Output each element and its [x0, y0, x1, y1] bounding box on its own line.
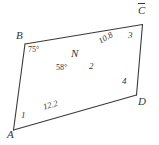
angle-label-n-58: 58°	[56, 64, 67, 72]
figure-lines	[0, 0, 159, 145]
angle-label-2: 2	[89, 62, 94, 71]
angle-label-4: 4	[122, 77, 127, 86]
geometry-figure: B A C D N 75° 58° 1 2 3 4 12.2 10.8	[0, 0, 159, 145]
vertex-label-n: N	[71, 48, 78, 59]
angle-label-1: 1	[21, 111, 26, 120]
angle-label-b-75: 75°	[28, 46, 39, 54]
vertex-label-c: C	[138, 5, 145, 16]
vertex-label-b: B	[16, 30, 23, 41]
vertex-c-overbar	[138, 3, 145, 4]
vertex-label-a: A	[7, 129, 14, 140]
segment-c-d	[137, 25, 143, 96]
angle-label-3: 3	[128, 31, 133, 40]
vertex-label-d: D	[138, 96, 146, 107]
segment-a-d	[14, 95, 137, 130]
segment-b-c	[25, 25, 143, 45]
